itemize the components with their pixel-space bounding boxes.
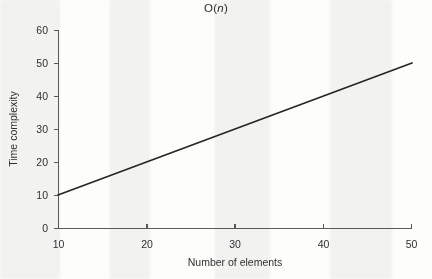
x-tick-label: 10 <box>53 238 65 250</box>
y-tick-marks <box>54 31 59 229</box>
y-tick-labels: 60 50 40 30 20 10 0 <box>36 24 48 234</box>
y-tick-label: 10 <box>36 189 48 201</box>
y-tick-label: 30 <box>36 123 48 135</box>
x-tick-marks <box>59 224 412 229</box>
x-tick-label: 30 <box>229 238 241 250</box>
x-tick-labels: 10 20 30 40 50 <box>53 238 418 250</box>
y-axis-title: Time complexity <box>7 91 19 167</box>
x-tick-label: 20 <box>141 238 153 250</box>
y-tick-label: 60 <box>36 24 48 36</box>
plot-area: 60 50 40 30 20 10 0 10 20 30 40 50 Numbe… <box>0 0 432 279</box>
x-axis-title: Number of elements <box>188 256 283 268</box>
y-tick-label: 40 <box>36 90 48 102</box>
x-tick-label: 50 <box>406 238 418 250</box>
y-tick-label: 0 <box>42 222 48 234</box>
y-tick-label: 50 <box>36 57 48 69</box>
series-line-on <box>58 63 412 195</box>
y-tick-label: 20 <box>36 156 48 168</box>
x-tick-label: 40 <box>318 238 330 250</box>
chart-figure: O(n) 60 50 40 30 <box>0 0 432 279</box>
